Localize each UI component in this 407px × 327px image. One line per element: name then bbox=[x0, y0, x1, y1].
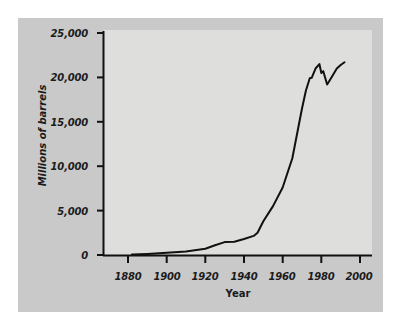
chart-plot bbox=[0, 0, 407, 327]
data-series-line bbox=[132, 62, 345, 254]
chart-figure: Millions of barrels Year 0 5,000 10,000 … bbox=[0, 0, 407, 327]
